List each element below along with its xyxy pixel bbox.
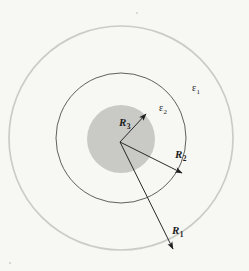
scan-speck <box>136 12 138 14</box>
label-radius-3-symbol: R <box>119 116 126 128</box>
label-radius-3: R3 <box>119 117 130 128</box>
figure-canvas: ε1 ε2 R3 R2 R1 <box>0 0 249 271</box>
label-epsilon-1-subscript: 1 <box>197 88 201 96</box>
label-epsilon-2-subscript: 2 <box>164 108 168 116</box>
label-epsilon-2-symbol: ε <box>159 102 163 113</box>
label-radius-1-subscript: 1 <box>180 230 184 239</box>
label-epsilon-2: ε2 <box>159 103 167 113</box>
label-radius-2: R2 <box>175 149 186 160</box>
label-epsilon-1: ε1 <box>192 83 200 93</box>
label-radius-2-symbol: R <box>175 148 182 160</box>
concentric-spheres-diagram <box>0 0 249 271</box>
label-radius-1-symbol: R <box>172 224 179 236</box>
scan-speck <box>9 262 11 264</box>
label-radius-3-subscript: 3 <box>127 122 131 131</box>
label-epsilon-1-symbol: ε <box>192 82 196 93</box>
label-radius-1: R1 <box>172 225 183 236</box>
label-radius-2-subscript: 2 <box>183 154 187 163</box>
